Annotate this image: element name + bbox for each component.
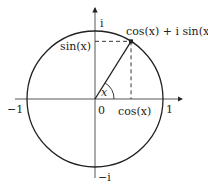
point-marker <box>129 39 133 43</box>
sin-label: sin(x) <box>60 40 91 53</box>
imaginary-positive-label: i <box>100 17 104 30</box>
real-negative-label: −1 <box>7 103 23 116</box>
angle-label: x <box>101 86 108 99</box>
unit-circle-diagram: x i cos(x) + i sin(x) sin(x) 0 cos(x) −1… <box>0 0 208 188</box>
cos-label: cos(x) <box>118 105 151 118</box>
point-label: cos(x) + i sin(x) <box>126 25 208 38</box>
origin-label: 0 <box>98 104 105 117</box>
imaginary-negative-label: −i <box>98 171 111 184</box>
real-positive-label: 1 <box>166 103 173 116</box>
